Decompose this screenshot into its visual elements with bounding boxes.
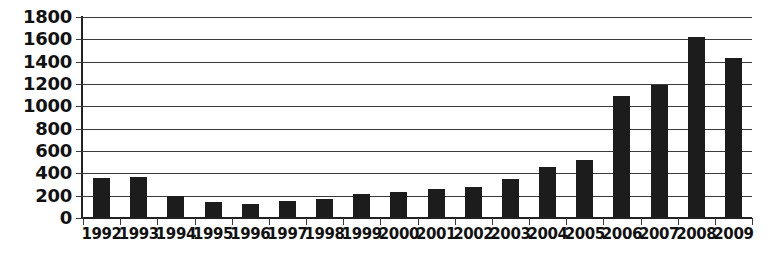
gridline [83, 62, 752, 63]
plot-area [83, 17, 752, 218]
x-axis-tick-label: 2008 [676, 226, 716, 243]
x-axis-tick-mark [603, 218, 604, 225]
y-axis-tick-mark [76, 151, 83, 152]
x-axis-tick-mark [752, 218, 753, 225]
bar [725, 58, 742, 217]
bar [242, 204, 259, 217]
x-axis-tick-label: 1993 [119, 226, 159, 243]
x-axis-tick-label: 2004 [528, 226, 568, 243]
y-axis-tick-label: 200 [35, 187, 72, 205]
x-axis-tick-mark [380, 218, 381, 225]
x-axis-tick-label: 2007 [639, 226, 679, 243]
x-axis-tick-label: 1996 [230, 226, 270, 243]
x-axis-line [81, 217, 752, 219]
bar [539, 167, 556, 217]
bar [576, 160, 593, 217]
gridline [83, 17, 752, 18]
x-axis-tick-label: 2009 [713, 226, 753, 243]
bar [613, 96, 630, 217]
x-axis-tick-mark [566, 218, 567, 225]
x-axis-tick-label: 1995 [193, 226, 233, 243]
x-axis-tick-mark [641, 218, 642, 225]
gridline [83, 39, 752, 40]
y-axis-tick-label: 1200 [23, 75, 72, 93]
y-axis-tick-label: 600 [35, 142, 72, 160]
y-axis-tick-mark [76, 173, 83, 174]
x-axis-tick-mark [343, 218, 344, 225]
x-axis-tick-label: 1994 [156, 226, 196, 243]
x-axis-tick-label: 2002 [453, 226, 493, 243]
y-axis-tick-mark [76, 84, 83, 85]
x-axis-tick-mark [83, 218, 84, 225]
y-axis-tick-mark [76, 129, 83, 130]
x-axis-tick-mark [120, 218, 121, 225]
x-axis-tick-mark [529, 218, 530, 225]
bar [688, 37, 705, 217]
y-axis-tick-mark [76, 218, 83, 219]
x-axis-tick-mark [157, 218, 158, 225]
bar [93, 178, 110, 217]
bar [167, 196, 184, 217]
y-axis-tick-mark [76, 39, 83, 40]
x-axis-tick-label: 2003 [490, 226, 530, 243]
bar [465, 187, 482, 217]
x-axis-tick-mark [306, 218, 307, 225]
x-axis-tick-label: 1992 [82, 226, 122, 243]
x-axis-tick-label: 2000 [379, 226, 419, 243]
y-axis-tick-label: 0 [60, 209, 72, 227]
y-axis-tick-mark [76, 62, 83, 63]
bar [316, 199, 333, 217]
bar [390, 192, 407, 217]
bar [205, 202, 222, 217]
y-axis-tick-mark [76, 196, 83, 197]
x-axis-tick-label: 2006 [602, 226, 642, 243]
x-axis-tick-mark [195, 218, 196, 225]
y-axis-tick-label: 800 [35, 120, 72, 138]
x-axis-tick-label: 1997 [267, 226, 307, 243]
x-axis-tick-label-group: 1992199319941995199619971998199920002001… [83, 226, 752, 252]
x-axis-tick-mark [492, 218, 493, 225]
bar [353, 194, 370, 217]
y-axis-tick-label: 1400 [23, 53, 72, 71]
x-axis-tick-mark [418, 218, 419, 225]
y-axis-tick-label-group: 020040060080010001200140016001800 [0, 0, 76, 256]
y-axis-line [81, 16, 83, 219]
y-axis-tick-label: 400 [35, 164, 72, 182]
y-axis-tick-label: 1000 [23, 97, 72, 115]
x-axis-tick-label: 1998 [305, 226, 345, 243]
x-axis-tick-mark [715, 218, 716, 225]
x-axis-tick-mark [455, 218, 456, 225]
bar [279, 201, 296, 217]
x-axis-tick-label: 2001 [416, 226, 456, 243]
x-axis-tick-label: 1999 [342, 226, 382, 243]
bar [428, 189, 445, 217]
bar [130, 177, 147, 217]
y-axis-tick-mark [76, 106, 83, 107]
x-axis-tick-mark [269, 218, 270, 225]
y-axis-tick-label: 1800 [23, 8, 72, 26]
y-axis-tick-mark [76, 17, 83, 18]
x-axis-tick-mark [232, 218, 233, 225]
x-axis-tick-mark [678, 218, 679, 225]
x-axis-tick-label: 2005 [565, 226, 605, 243]
bar-chart: 020040060080010001200140016001800 199219… [0, 0, 778, 256]
y-axis-tick-label: 1600 [23, 30, 72, 48]
bar [502, 179, 519, 217]
bar [651, 85, 668, 217]
